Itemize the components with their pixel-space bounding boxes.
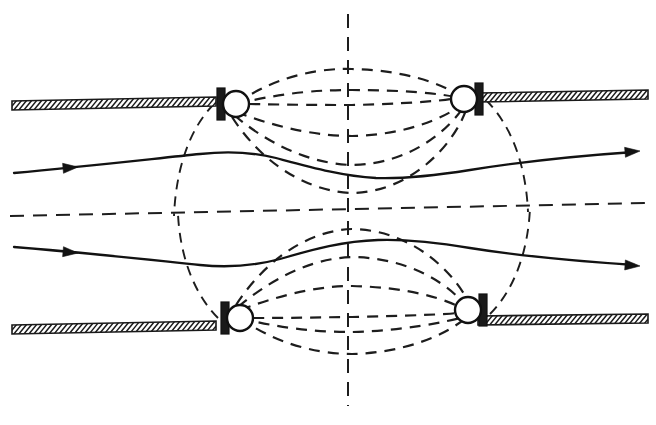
lower-left-wall <box>8 320 221 335</box>
flux-upper-straight <box>249 99 451 105</box>
flux-upper-mid-low <box>236 103 464 136</box>
upper-particle-trajectory <box>14 152 634 178</box>
lower-particle-trajectory-arrow-end <box>625 260 640 270</box>
upper-particle-trajectory-arrow-end <box>625 147 640 157</box>
coil-layer <box>217 83 487 334</box>
diagram-canvas <box>0 0 656 425</box>
flux-lower-outer-bottom <box>240 316 468 354</box>
lower-particle-trajectory <box>14 240 634 267</box>
magnetic-lens-diagram <box>0 0 656 425</box>
coil-upper-left-group <box>217 88 249 120</box>
axis-layer <box>10 14 648 406</box>
flux-lower-high <box>238 257 470 311</box>
flux-upper-left-outer-arc <box>174 104 214 216</box>
coil-upper-right <box>451 86 477 112</box>
lower-particle-trajectory-group <box>14 240 640 270</box>
coil-upper-right-group <box>451 83 483 115</box>
horizontal-axis-of-symmetry <box>10 203 648 216</box>
coil-lower-right <box>455 297 481 323</box>
upper-left-wall <box>8 96 221 111</box>
wall-layer <box>8 89 653 335</box>
lower-particle-trajectory-arrow-mid <box>63 247 78 257</box>
coil-upper-left <box>223 91 249 117</box>
trajectory-layer <box>14 147 640 270</box>
flux-upper-lowest <box>232 104 468 193</box>
upper-right-wall <box>474 89 653 103</box>
upper-particle-trajectory-arrow-mid <box>63 163 78 173</box>
flux-lower-mid-high <box>240 286 468 312</box>
coil-lower-left-group <box>221 302 253 334</box>
flux-lower-right-outer-arc <box>490 208 530 314</box>
flux-upper-outer-top <box>236 69 464 104</box>
flux-upper-right-outer-arc <box>486 100 528 212</box>
coil-lower-right-group <box>455 294 487 326</box>
lower-right-wall <box>474 313 653 326</box>
flux-lower-straight <box>253 313 455 318</box>
coil-lower-left <box>227 305 253 331</box>
